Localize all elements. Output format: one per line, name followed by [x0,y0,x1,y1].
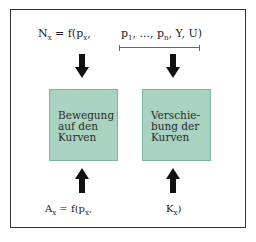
box-line: Kurven [58,132,117,143]
demand-function-right: p1, ..., pn, Y, U) [121,27,202,42]
arrow-up-icon [75,168,89,194]
formula-symbol: p [121,27,128,40]
formula-text: ) [177,203,181,214]
curve-shift-box: Verschie- bung der Kurven [142,89,211,161]
formula-symbol: N [38,27,48,40]
formula-text: = f(p [52,27,84,40]
movement-along-curve-box: Bewegung auf den Kurven [49,89,118,161]
formula-text: , [89,203,92,214]
arrow-down-icon [75,54,89,80]
formula-text: , [87,27,91,40]
grouping-bracket [119,47,200,48]
arrow-up-icon [166,168,180,194]
formula-text: , Y, U) [169,27,202,40]
box-line: Kurven [151,132,210,143]
demand-function-left: Nx = f(px, [38,27,91,42]
formula-text: = f(p [56,203,85,214]
arrow-down-icon [166,54,180,80]
supply-function-right: Kx) [166,203,181,217]
formula-text: , ..., p [133,27,165,40]
supply-function-left: Ax = f(px, [45,203,92,217]
